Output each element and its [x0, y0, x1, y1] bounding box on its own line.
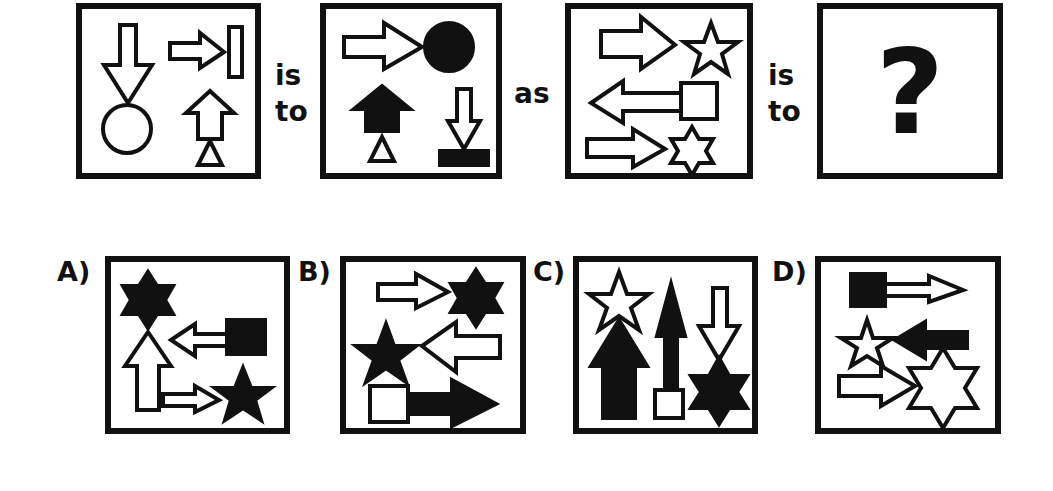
filled-square-icon [851, 274, 885, 306]
filled-square-icon [227, 320, 265, 354]
hollow-right-arrow-icon [587, 129, 665, 167]
filled-5-point-star-icon [215, 368, 271, 420]
filled-up-arrow-icon [354, 86, 410, 131]
connector-is: is [768, 62, 794, 90]
hollow-tall-rectangle-icon [229, 27, 242, 77]
filled-6-point-star-icon [451, 270, 501, 326]
hollow-right-arrow-icon [839, 366, 915, 406]
hollow-square-icon [655, 390, 683, 418]
connector-to: to [768, 98, 801, 126]
panel-2-figures [326, 9, 496, 173]
option-d-figures [821, 262, 995, 428]
hollow-left-arrow-icon [591, 81, 681, 123]
option-c[interactable] [573, 256, 758, 434]
hollow-right-arrow-icon [163, 386, 219, 412]
filled-6-point-star-icon [123, 272, 173, 328]
hollow-6-point-star-icon [671, 127, 713, 173]
filled-left-arrow-icon [895, 322, 967, 358]
hollow-right-arrow-icon [344, 23, 422, 69]
panel-1-figures [82, 9, 255, 173]
option-a-label: A) [57, 258, 90, 285]
filled-up-arrow-icon [591, 320, 647, 418]
connector-is: is [275, 62, 301, 90]
option-b-figures [346, 262, 520, 428]
option-b[interactable] [340, 256, 526, 434]
analogy-panel-1 [76, 3, 261, 179]
hollow-circle-icon [103, 105, 151, 153]
option-a[interactable] [105, 256, 290, 434]
filled-5-point-star-icon [356, 324, 416, 382]
filled-flat-rectangle-icon [440, 151, 488, 165]
filled-6-point-star-icon [691, 358, 747, 424]
connector-as: as [514, 80, 550, 108]
hollow-6-point-star-icon [909, 348, 977, 428]
connector-to: to [275, 98, 308, 126]
filled-circle-icon [425, 23, 473, 71]
option-d-label: D) [772, 258, 807, 285]
option-c-label: C) [533, 258, 565, 285]
analogy-panel-2 [320, 3, 502, 179]
hollow-up-arrow-icon [186, 91, 234, 139]
hollow-left-arrow-icon [171, 324, 227, 356]
analogy-panel-3 [565, 3, 753, 179]
option-a-figures [111, 262, 284, 428]
filled-up-arrow-icon [657, 284, 685, 390]
hollow-square-icon [370, 386, 408, 422]
hollow-right-arrow-icon [170, 33, 224, 68]
hollow-triangle-icon [198, 141, 222, 165]
hollow-right-arrow-icon [601, 17, 675, 69]
option-c-figures [579, 262, 752, 428]
hollow-5-point-star-icon [684, 23, 738, 74]
question-mark-icon: ? [823, 23, 997, 161]
hollow-down-arrow-icon [448, 89, 480, 149]
hollow-5-point-star-icon [841, 320, 893, 366]
filled-right-arrow-icon [408, 380, 496, 426]
hollow-left-arrow-icon [422, 322, 500, 372]
hollow-right-arrow-icon [885, 276, 963, 302]
unknown-panel: ? [817, 3, 1003, 179]
option-d[interactable] [815, 256, 1001, 434]
option-b-label: B) [298, 258, 331, 285]
hollow-square-icon [681, 83, 717, 119]
hollow-down-arrow-icon [104, 25, 152, 103]
hollow-down-arrow-icon [699, 288, 739, 360]
panel-3-figures [571, 9, 747, 173]
hollow-right-arrow-icon [378, 274, 448, 308]
hollow-triangle-icon [370, 137, 394, 161]
